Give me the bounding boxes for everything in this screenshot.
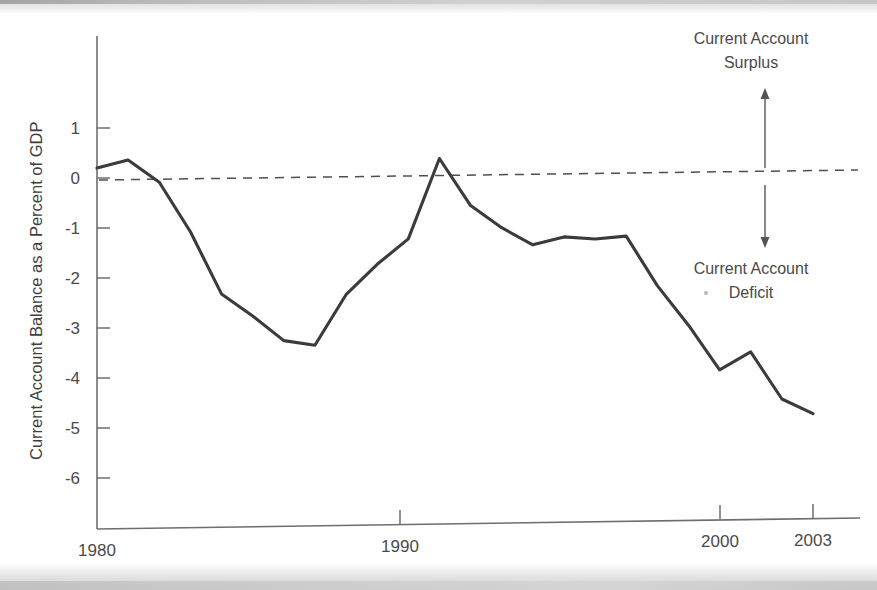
deficit-label-line2: Deficit — [729, 284, 774, 301]
y-tick-label-neg2: -2 — [65, 269, 80, 288]
page-canvas: 1 0 -1 -2 -3 -4 -5 -6 Current Account Ba… — [0, 0, 877, 590]
y-tick-label-neg4: -4 — [65, 369, 80, 388]
y-tick-label-neg6: -6 — [65, 469, 80, 488]
x-tick-label-2003: 2003 — [794, 531, 832, 550]
data-series-line — [97, 159, 813, 414]
x-tick-label-2000: 2000 — [701, 532, 739, 551]
chart-svg: 1 0 -1 -2 -3 -4 -5 -6 Current Account Ba… — [0, 0, 877, 590]
y-axis: 1 0 -1 -2 -3 -4 -5 -6 — [65, 36, 110, 529]
up-arrow-head — [761, 88, 770, 99]
y-tick-label-0: 0 — [71, 169, 80, 188]
deficit-label-line1: Current Account — [694, 260, 809, 277]
chart-figure: 1 0 -1 -2 -3 -4 -5 -6 Current Account Ba… — [0, 0, 877, 590]
down-arrow-head — [761, 237, 770, 248]
y-tick-label-neg5: -5 — [65, 419, 80, 438]
y-tick-label-1: 1 — [71, 119, 80, 138]
scan-speck — [704, 291, 708, 295]
x-axis: 1980 1990 2000 2003 — [78, 504, 860, 560]
surplus-label-line1: Current Account — [694, 30, 809, 47]
deficit-annotation: Current Account Deficit — [694, 185, 809, 301]
x-tick-label-1980: 1980 — [78, 541, 116, 560]
x-axis-line — [97, 518, 860, 529]
y-tick-label-neg1: -1 — [65, 219, 80, 238]
surplus-annotation: Current Account Surplus — [694, 30, 809, 168]
y-axis-title: Current Account Balance as a Percent of … — [27, 122, 45, 460]
surplus-label-line2: Surplus — [724, 54, 778, 71]
up-arrow-icon — [761, 88, 770, 168]
zero-reference-line — [99, 170, 858, 180]
x-tick-label-1990: 1990 — [381, 537, 419, 556]
down-arrow-icon — [761, 185, 770, 248]
y-tick-label-neg3: -3 — [65, 319, 80, 338]
